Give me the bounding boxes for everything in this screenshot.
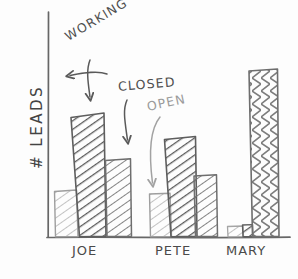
working-arrow-shaft-icon [88,60,90,97]
joe-closed-bar [106,159,132,237]
bar-group-joe [55,113,132,237]
mary-working-bar [243,225,254,237]
x-tick-label-pete: PETE [155,243,191,258]
mary-open-bar [228,226,244,237]
open-arrow-icon [151,117,160,183]
y-axis-label: # LEADS [28,72,46,182]
pete-closed-bar [194,175,218,237]
pete-working-bar [165,137,198,237]
mary-closed-bar [249,69,279,237]
joe-open-bar [55,190,79,237]
bar-group-pete [150,137,218,237]
hand-drawn-bar-chart: # LEADS JOE PETE MARY WORKING CLOSED OPE… [0,0,298,279]
x-tick-label-joe: JOE [72,243,97,258]
x-tick-label-mary: MARY [226,243,266,258]
bar-group-mary [228,69,280,237]
closed-arrow-icon [125,100,128,140]
working-arrow-icon [70,72,107,75]
